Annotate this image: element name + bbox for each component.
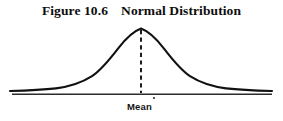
figure-normal-distribution: Figure 10.6 Normal Distribution Mean	[0, 0, 283, 121]
scan-artifact-mark	[153, 97, 155, 99]
mean-axis-label: Mean	[127, 101, 152, 112]
mean-label-container: Mean	[127, 96, 155, 114]
